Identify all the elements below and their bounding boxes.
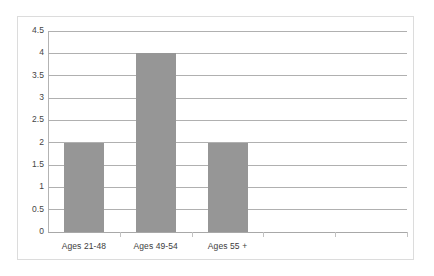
y-tick-label: 4.5 xyxy=(10,26,44,35)
y-tick-label: 2.5 xyxy=(10,115,44,124)
gridline xyxy=(48,98,407,99)
bar-chart: 4.5 4 3.5 3 2.5 2 1.5 1 0.5 0 Ages 21-48… xyxy=(0,0,434,276)
category-tick xyxy=(120,232,121,237)
plot-area xyxy=(48,31,407,232)
bar xyxy=(64,143,104,232)
y-tick-label: 2 xyxy=(10,138,44,147)
bar xyxy=(136,53,176,232)
y-tick-label: 3 xyxy=(10,93,44,102)
category-tick xyxy=(335,232,336,237)
y-axis-tick-labels: 4.5 4 3.5 3 2.5 2 1.5 1 0.5 0 xyxy=(8,31,44,232)
category-label: Ages 55 + xyxy=(192,241,264,252)
gridline xyxy=(48,120,407,121)
y-tick-label: 3.5 xyxy=(10,71,44,80)
category-label: Ages 21-48 xyxy=(48,241,120,252)
gridline xyxy=(48,53,407,54)
category-label: Ages 49-54 xyxy=(120,241,192,252)
y-tick-label: 1 xyxy=(10,182,44,191)
y-tick-label: 4 xyxy=(10,48,44,57)
y-tick-label: 1.5 xyxy=(10,160,44,169)
y-tick-label: 0.5 xyxy=(10,205,44,214)
y-tick-label: 0 xyxy=(10,227,44,236)
bar xyxy=(208,143,248,232)
gridline xyxy=(48,31,407,32)
category-tick xyxy=(407,232,408,237)
category-tick xyxy=(192,232,193,237)
category-axis-line xyxy=(48,232,407,233)
gridline xyxy=(48,75,407,76)
category-tick xyxy=(263,232,264,237)
